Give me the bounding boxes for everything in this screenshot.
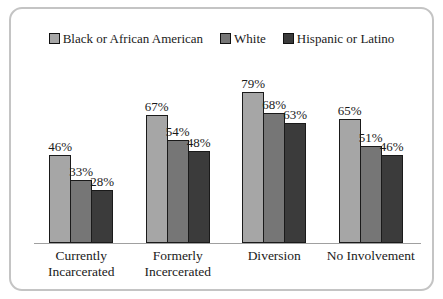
legend-swatch-icon [220,33,231,44]
bar-value-label: 79% [241,77,265,91]
bar-group: 65%51%46% [323,52,420,243]
category-label: Formerly Incercerated [130,248,227,280]
bar: 65% [339,119,361,243]
legend-item: Hispanic or Latino [283,31,394,46]
legend-item: Black or African American [49,31,203,46]
category-label: Currently Incarcerated [33,248,130,280]
legend-swatch-icon [49,33,60,44]
bar: 67% [146,115,168,243]
legend-label: White [234,31,266,46]
category-axis-labels: Currently IncarceratedFormerly Incercera… [33,248,419,280]
category-label: Diversion [226,248,323,280]
legend-label: Black or African American [63,31,203,46]
bar-value-label: 46% [380,140,404,154]
bar-value-label: 67% [145,100,169,114]
legend-label: Hispanic or Latino [297,31,394,46]
bar-value-label: 63% [283,108,307,122]
category-axis-line [34,243,421,244]
bars-row: 46%33%28%67%54%48%79%68%63%65%51%46% [33,52,419,243]
bar: 68% [263,113,285,243]
bar: 46% [49,155,71,243]
bar-value-label: 46% [48,140,72,154]
category-label: No Involvement [323,248,420,280]
bar-group: 79%68%63% [226,52,323,243]
bar: 46% [381,155,403,243]
bar: 28% [91,190,113,243]
bar: 54% [167,140,189,243]
bar: 79% [242,92,264,243]
chart-canvas: Black or African AmericanWhiteHispanic o… [0,0,443,299]
bar: 63% [284,123,306,243]
legend-item: White [220,31,266,46]
bar: 33% [70,180,92,243]
bar: 51% [360,146,382,243]
bar: 48% [188,151,210,243]
bar-value-label: 28% [90,175,114,189]
bar-value-label: 65% [338,104,362,118]
chart-legend: Black or African AmericanWhiteHispanic o… [0,31,443,46]
bar-group: 67%54%48% [130,52,227,243]
bar-value-label: 48% [187,136,211,150]
legend-swatch-icon [283,33,294,44]
bar-group: 46%33%28% [33,52,130,243]
